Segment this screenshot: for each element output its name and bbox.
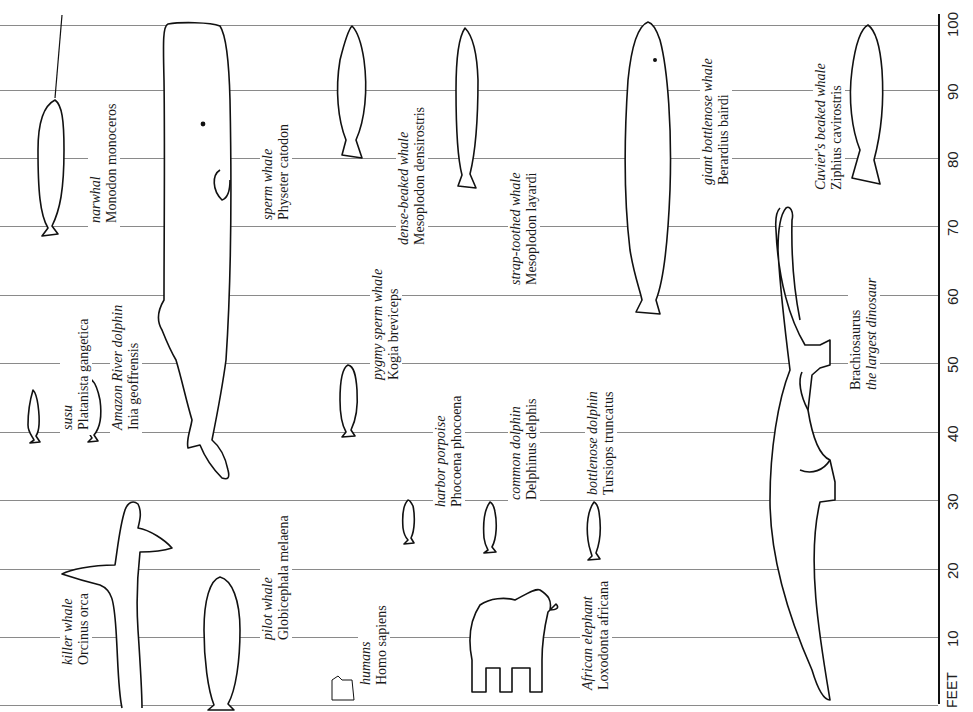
pilot-whale-icon	[204, 577, 240, 710]
common-name: bottlenose dolphin	[585, 391, 601, 495]
strap-toothed-whale-icon	[456, 28, 478, 188]
humans-icon	[332, 676, 354, 700]
label-brachiosaurus: Brachiosaurus the largest dinosaur	[848, 273, 880, 395]
common-name: killer whale	[60, 593, 76, 665]
tick-label-50: 50	[944, 356, 961, 373]
label-amazon-river-dolphin: Amazon River dolphin Inia geoffrensis	[110, 300, 142, 435]
pygmy-sperm-whale-icon	[340, 365, 357, 437]
scientific-name: Loxodonta africana	[596, 581, 612, 690]
scientific-name: Berardius bairdi	[716, 58, 732, 185]
label-harbor-porpoise: harbor porpoise Phocoena phocoena	[433, 390, 465, 512]
axis-unit-label: FEET	[944, 672, 960, 708]
common-name: narwhal	[88, 104, 104, 223]
common-name: Brachiosaurus	[848, 278, 864, 390]
label-common-dolphin: common dolphin Delphinus delphis	[508, 394, 540, 506]
label-giant-bottlenose-whale: giant bottlenose whale Berardius bairdi	[700, 53, 732, 190]
tick-label-90: 90	[944, 83, 961, 100]
scientific-name: Orcinus orca	[76, 593, 92, 665]
scientific-name: Kogia breviceps	[386, 269, 402, 380]
label-dense-beaked-whale: dense-beaked whale Mesoplodon densirostr…	[396, 102, 428, 250]
common-name: sperm whale	[260, 124, 276, 220]
common-name: pilot whale	[260, 515, 276, 640]
narwhal-icon	[38, 15, 64, 236]
scientific-name: Tursiops truncatus	[601, 391, 617, 495]
label-strap-toothed-whale: strap-toothed whale Mesoplodon layardi	[508, 168, 540, 290]
scientific-name: the largest dinosaur	[864, 278, 880, 390]
common-name: harbor porpoise	[433, 395, 449, 507]
common-name: common dolphin	[508, 399, 524, 501]
common-name: dense-beaked whale	[396, 107, 412, 245]
scientific-name: Globicephala melaena	[276, 515, 292, 640]
susu-icon	[28, 390, 40, 443]
tick-label-60: 60	[944, 288, 961, 305]
scientific-name: Ziphius cavirostris	[829, 63, 845, 190]
label-african-elephant: African elephant Loxodonta africana	[580, 576, 612, 695]
feet-axis	[938, 14, 940, 704]
tick-label-30: 30	[944, 493, 961, 510]
label-humans: humans Homo sapiens	[358, 600, 390, 690]
african-elephant-icon	[470, 590, 558, 692]
common-name: strap-toothed whale	[508, 173, 524, 285]
label-killer-whale: killer whale Orcinus orca	[60, 588, 92, 670]
scientific-name: Inia geoffrensis	[126, 305, 142, 430]
scientific-name: Phocoena phocoena	[449, 395, 465, 507]
common-name: susu	[60, 318, 76, 430]
bottlenose-dolphin-icon	[587, 502, 600, 560]
cuviers-beaked-whale-icon	[850, 25, 882, 184]
common-name: African elephant	[580, 581, 596, 690]
tick-label-20: 20	[944, 562, 961, 579]
scientific-name: Delphinus delphis	[524, 399, 540, 501]
sperm-whale-icon	[158, 23, 230, 479]
label-sperm-whale: sperm whale Physeter catodon	[260, 119, 292, 225]
common-name: Amazon River dolphin	[110, 305, 126, 430]
harbor-porpoise-icon	[403, 500, 415, 544]
label-pygmy-sperm-whale: pygmy sperm whale Kogia breviceps	[370, 264, 402, 385]
scientific-name: Mesoplodon layardi	[524, 173, 540, 285]
label-bottlenose-dolphin: bottlenose dolphin Tursiops truncatus	[585, 386, 617, 500]
label-narwhal: narwhal Monodon monoceros	[88, 99, 120, 228]
label-susu: susu Platanista gangetica	[60, 313, 92, 435]
label-cuviers-beaked-whale: Cuvier's beaked whale Ziphius cavirostri…	[813, 58, 845, 195]
tick-label-40: 40	[944, 425, 961, 442]
scientific-name: Platanista gangetica	[76, 318, 92, 430]
dense-beaked-whale-icon	[338, 26, 366, 158]
giant-bottlenose-whale-icon	[625, 22, 670, 314]
common-name: Cuvier's beaked whale	[813, 63, 829, 190]
scientific-name: Mesoplodon densirostris	[412, 107, 428, 245]
common-dolphin-icon	[484, 502, 497, 553]
tick-label-70: 70	[944, 219, 961, 236]
scientific-name: Homo sapiens	[374, 605, 390, 685]
scientific-name: Monodon monoceros	[104, 104, 120, 223]
common-name: giant bottlenose whale	[700, 58, 716, 185]
label-pilot-whale: pilot whale Globicephala melaena	[260, 510, 292, 645]
scientific-name: Physeter catodon	[276, 124, 292, 220]
tick-label-80: 80	[944, 151, 961, 168]
common-name: humans	[358, 605, 374, 685]
tick-label-100: 100	[944, 12, 961, 37]
brachiosaurus-icon	[770, 207, 835, 700]
common-name: pygmy sperm whale	[370, 269, 386, 380]
tick-label-10: 10	[944, 630, 961, 647]
